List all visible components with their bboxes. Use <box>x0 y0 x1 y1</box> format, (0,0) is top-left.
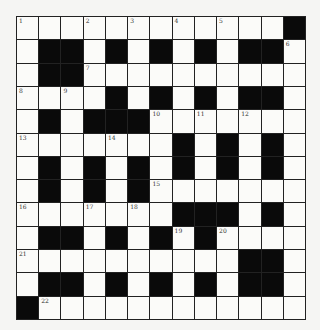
crossword-cell[interactable] <box>61 134 82 156</box>
crossword-cell[interactable] <box>217 250 238 272</box>
crossword-cell[interactable] <box>284 64 305 86</box>
crossword-cell[interactable] <box>262 17 283 39</box>
crossword-cell[interactable] <box>17 157 38 179</box>
crossword-cell[interactable] <box>128 64 149 86</box>
crossword-cell[interactable] <box>106 157 127 179</box>
crossword-cell[interactable] <box>173 297 194 319</box>
crossword-cell[interactable]: 11 <box>195 110 216 132</box>
crossword-cell[interactable] <box>128 227 149 249</box>
crossword-cell[interactable]: 4 <box>173 17 194 39</box>
crossword-cell[interactable] <box>106 250 127 272</box>
crossword-cell[interactable] <box>106 17 127 39</box>
crossword-cell[interactable] <box>150 297 171 319</box>
crossword-cell[interactable] <box>61 17 82 39</box>
crossword-cell[interactable] <box>173 180 194 202</box>
crossword-cell[interactable] <box>217 273 238 295</box>
crossword-cell[interactable] <box>128 87 149 109</box>
crossword-cell[interactable]: 9 <box>61 87 82 109</box>
crossword-cell[interactable]: 14 <box>106 134 127 156</box>
crossword-cell[interactable] <box>150 64 171 86</box>
crossword-cell[interactable] <box>150 157 171 179</box>
crossword-cell[interactable] <box>217 87 238 109</box>
crossword-cell[interactable] <box>195 180 216 202</box>
crossword-cell[interactable] <box>84 134 105 156</box>
crossword-cell[interactable]: 22 <box>39 297 60 319</box>
crossword-cell[interactable] <box>173 40 194 62</box>
crossword-cell[interactable] <box>106 180 127 202</box>
crossword-cell[interactable]: 13 <box>17 134 38 156</box>
crossword-cell[interactable] <box>150 203 171 225</box>
crossword-cell[interactable] <box>150 17 171 39</box>
crossword-cell[interactable] <box>128 40 149 62</box>
crossword-cell[interactable] <box>284 157 305 179</box>
crossword-cell[interactable]: 15 <box>150 180 171 202</box>
crossword-cell[interactable] <box>217 297 238 319</box>
crossword-cell[interactable] <box>239 134 260 156</box>
crossword-cell[interactable] <box>61 250 82 272</box>
crossword-cell[interactable]: 12 <box>239 110 260 132</box>
crossword-cell[interactable] <box>284 203 305 225</box>
crossword-cell[interactable] <box>195 297 216 319</box>
crossword-cell[interactable] <box>39 134 60 156</box>
crossword-cell[interactable] <box>39 87 60 109</box>
crossword-cell[interactable] <box>128 297 149 319</box>
crossword-cell[interactable] <box>128 273 149 295</box>
crossword-cell[interactable]: 8 <box>17 87 38 109</box>
crossword-cell[interactable]: 3 <box>128 17 149 39</box>
crossword-cell[interactable] <box>61 157 82 179</box>
crossword-cell[interactable] <box>284 227 305 249</box>
crossword-cell[interactable] <box>39 17 60 39</box>
crossword-cell[interactable]: 7 <box>84 64 105 86</box>
crossword-cell[interactable] <box>284 87 305 109</box>
crossword-cell[interactable] <box>39 250 60 272</box>
crossword-cell[interactable]: 2 <box>84 17 105 39</box>
crossword-cell[interactable] <box>262 110 283 132</box>
crossword-cell[interactable] <box>239 64 260 86</box>
crossword-cell[interactable]: 18 <box>128 203 149 225</box>
crossword-cell[interactable] <box>195 250 216 272</box>
crossword-cell[interactable] <box>262 227 283 249</box>
crossword-cell[interactable] <box>84 87 105 109</box>
crossword-cell[interactable] <box>239 180 260 202</box>
crossword-cell[interactable] <box>195 157 216 179</box>
crossword-cell[interactable]: 1 <box>17 17 38 39</box>
crossword-cell[interactable] <box>106 297 127 319</box>
crossword-cell[interactable]: 5 <box>217 17 238 39</box>
crossword-cell[interactable] <box>239 297 260 319</box>
crossword-cell[interactable] <box>173 87 194 109</box>
crossword-cell[interactable] <box>17 40 38 62</box>
crossword-cell[interactable] <box>217 110 238 132</box>
crossword-cell[interactable] <box>262 180 283 202</box>
crossword-cell[interactable] <box>17 64 38 86</box>
crossword-cell[interactable] <box>39 203 60 225</box>
crossword-cell[interactable] <box>61 297 82 319</box>
crossword-cell[interactable] <box>17 110 38 132</box>
crossword-cell[interactable] <box>84 297 105 319</box>
crossword-cell[interactable] <box>262 64 283 86</box>
crossword-cell[interactable] <box>173 64 194 86</box>
crossword-cell[interactable] <box>195 17 216 39</box>
crossword-cell[interactable] <box>217 40 238 62</box>
crossword-cell[interactable] <box>128 134 149 156</box>
crossword-cell[interactable] <box>284 273 305 295</box>
crossword-cell[interactable] <box>217 64 238 86</box>
crossword-cell[interactable]: 17 <box>84 203 105 225</box>
crossword-cell[interactable] <box>106 203 127 225</box>
crossword-cell[interactable] <box>84 273 105 295</box>
crossword-cell[interactable] <box>17 227 38 249</box>
crossword-cell[interactable] <box>173 110 194 132</box>
crossword-cell[interactable]: 21 <box>17 250 38 272</box>
crossword-cell[interactable] <box>84 40 105 62</box>
crossword-cell[interactable] <box>195 64 216 86</box>
crossword-cell[interactable] <box>84 250 105 272</box>
crossword-cell[interactable] <box>150 250 171 272</box>
crossword-cell[interactable] <box>195 134 216 156</box>
crossword-cell[interactable]: 16 <box>17 203 38 225</box>
crossword-cell[interactable] <box>84 227 105 249</box>
crossword-cell[interactable] <box>173 273 194 295</box>
crossword-cell[interactable] <box>284 297 305 319</box>
crossword-cell[interactable] <box>262 297 283 319</box>
crossword-cell[interactable] <box>128 250 149 272</box>
crossword-cell[interactable] <box>61 110 82 132</box>
crossword-cell[interactable]: 20 <box>217 227 238 249</box>
